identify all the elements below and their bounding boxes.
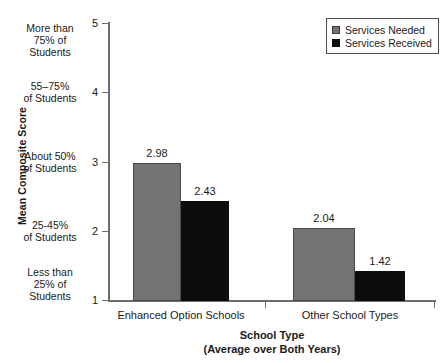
bar-value-other-needed: 2.04 bbox=[313, 212, 334, 224]
x-axis-title-main: School Type bbox=[108, 329, 436, 343]
x-group-label-enhanced: Enhanced Option Schools bbox=[117, 309, 244, 321]
bar-other-services-needed[interactable] bbox=[293, 228, 355, 301]
legend: Services Needed Services Received bbox=[326, 18, 439, 54]
x-axis-title-sub: (Average over Both Years) bbox=[108, 343, 436, 357]
x-tick-right-end bbox=[434, 301, 435, 308]
y-axis-line bbox=[108, 22, 110, 301]
y-desc-1-line1: Less than bbox=[8, 266, 92, 278]
legend-swatch-icon-received bbox=[332, 39, 340, 47]
legend-label-needed: Services Needed bbox=[345, 24, 425, 36]
y-desc-4: 55–75% of Students bbox=[8, 80, 92, 104]
y-tick-5 bbox=[102, 23, 108, 24]
y-tick-1 bbox=[102, 300, 108, 301]
bar-value-enhanced-received: 2.43 bbox=[194, 185, 215, 197]
x-axis-title: School Type (Average over Both Years) bbox=[108, 329, 436, 356]
y-desc-3-line1: About 50% bbox=[8, 150, 92, 162]
bar-value-other-received: 1.42 bbox=[369, 255, 390, 267]
y-desc-5-line3: Students bbox=[8, 46, 92, 58]
y-desc-5-line2: 75% of bbox=[8, 34, 92, 46]
y-tick-2 bbox=[102, 231, 108, 232]
y-desc-1-line3: Students bbox=[8, 290, 92, 302]
y-desc-5-line1: More than bbox=[8, 22, 92, 34]
legend-label-received: Services Received bbox=[345, 37, 432, 49]
y-desc-2-line2: of Students bbox=[8, 231, 92, 243]
y-tick-3 bbox=[102, 162, 108, 163]
y-desc-4-line2: of Students bbox=[8, 92, 92, 104]
bar-enhanced-services-needed[interactable] bbox=[133, 163, 181, 301]
y-desc-4-line1: 55–75% bbox=[8, 80, 92, 92]
legend-item-services-needed[interactable]: Services Needed bbox=[332, 23, 432, 36]
y-desc-2: 25-45% of Students bbox=[8, 219, 92, 243]
y-desc-2-line1: 25-45% bbox=[8, 219, 92, 231]
bar-value-enhanced-needed: 2.98 bbox=[146, 147, 167, 159]
bar-enhanced-services-received[interactable] bbox=[181, 201, 229, 301]
y-desc-1: Less than 25% of Students bbox=[8, 266, 92, 303]
legend-swatch-icon-needed bbox=[332, 26, 340, 34]
y-desc-3-line2: of Students bbox=[8, 162, 92, 174]
y-desc-1-line2: 25% of bbox=[8, 278, 92, 290]
x-group-label-other: Other School Types bbox=[302, 309, 398, 321]
bar-other-services-received[interactable] bbox=[355, 271, 405, 301]
legend-item-services-received[interactable]: Services Received bbox=[332, 36, 432, 49]
bar-chart: Mean Composite Score 5 4 3 2 1 More than… bbox=[0, 0, 440, 363]
y-tick-4 bbox=[102, 92, 108, 93]
y-desc-5: More than 75% of Students bbox=[8, 22, 92, 59]
x-tick-divider bbox=[265, 301, 266, 308]
y-desc-3: About 50% of Students bbox=[8, 150, 92, 174]
